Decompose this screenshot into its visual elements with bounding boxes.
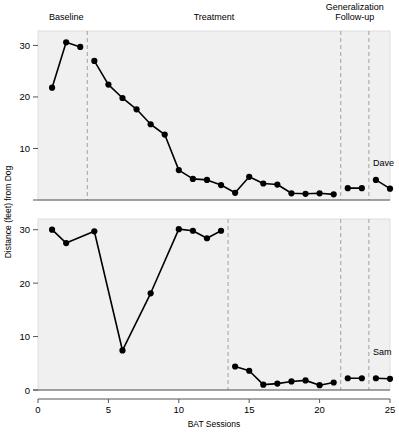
data-point bbox=[49, 85, 55, 91]
data-point bbox=[204, 235, 210, 241]
data-point bbox=[359, 375, 365, 381]
data-point bbox=[176, 167, 182, 173]
data-point bbox=[148, 290, 154, 296]
data-point bbox=[274, 181, 280, 187]
data-point bbox=[133, 106, 139, 112]
y-tick-label: 20 bbox=[19, 91, 30, 102]
y-tick-label: 20 bbox=[19, 278, 30, 289]
y-tick-label: 10 bbox=[19, 143, 30, 154]
data-point bbox=[119, 347, 125, 353]
data-point bbox=[246, 368, 252, 374]
data-point bbox=[218, 228, 224, 234]
data-point bbox=[148, 121, 154, 127]
data-point bbox=[288, 378, 294, 384]
data-point bbox=[232, 363, 238, 369]
data-point bbox=[176, 226, 182, 232]
phase-label-generalization: Generalization bbox=[326, 2, 384, 12]
data-point bbox=[204, 177, 210, 183]
data-point bbox=[190, 176, 196, 182]
phase-label-follow-up: Follow-up bbox=[335, 12, 374, 22]
y-tick-label: 0 bbox=[25, 385, 30, 396]
data-point bbox=[373, 177, 379, 183]
subject-label-dave: Dave bbox=[373, 158, 394, 168]
data-point bbox=[387, 186, 393, 192]
data-point bbox=[63, 39, 69, 45]
data-point bbox=[288, 190, 294, 196]
x-tick-label: 0 bbox=[35, 404, 40, 415]
phase-label-treatment: Treatment bbox=[194, 12, 235, 22]
data-point bbox=[345, 185, 351, 191]
data-point bbox=[317, 382, 323, 388]
chart-figure: 102030DaveBaselineTreatmentGeneralizatio… bbox=[0, 0, 399, 432]
panel-dave: 102030DaveBaselineTreatmentGeneralizatio… bbox=[19, 2, 394, 200]
data-point bbox=[232, 190, 238, 196]
panel-background bbox=[38, 219, 390, 390]
x-axis: 0510152025BAT Sessions bbox=[35, 399, 395, 429]
data-point bbox=[331, 379, 337, 385]
data-point bbox=[260, 180, 266, 186]
data-point bbox=[387, 376, 393, 382]
data-point bbox=[359, 185, 365, 191]
data-point bbox=[260, 382, 266, 388]
y-tick-label: 30 bbox=[19, 40, 30, 51]
y-tick-label: 10 bbox=[19, 331, 30, 342]
data-point bbox=[345, 375, 351, 381]
data-point bbox=[91, 58, 97, 64]
y-tick-label: 30 bbox=[19, 224, 30, 235]
data-point bbox=[331, 191, 337, 197]
single-case-design-chart: 102030DaveBaselineTreatmentGeneralizatio… bbox=[0, 0, 399, 432]
panel-sam: 0102030Sam bbox=[19, 219, 393, 396]
data-point bbox=[162, 131, 168, 137]
x-axis-title: BAT Sessions bbox=[188, 419, 241, 429]
data-point bbox=[63, 240, 69, 246]
data-point bbox=[190, 228, 196, 234]
data-point bbox=[246, 174, 252, 180]
subject-label-sam: Sam bbox=[373, 347, 392, 357]
x-tick-label: 15 bbox=[244, 404, 255, 415]
data-point bbox=[49, 227, 55, 233]
data-point bbox=[317, 190, 323, 196]
x-tick-label: 20 bbox=[314, 404, 325, 415]
data-point bbox=[119, 95, 125, 101]
data-point bbox=[302, 377, 308, 383]
y-axis-title: Distance (feet) from Dog bbox=[3, 165, 13, 258]
data-point bbox=[218, 182, 224, 188]
data-point bbox=[91, 228, 97, 234]
data-point bbox=[274, 380, 280, 386]
data-point bbox=[105, 81, 111, 87]
data-point bbox=[77, 44, 83, 50]
x-tick-label: 10 bbox=[174, 404, 185, 415]
panel-background bbox=[38, 31, 390, 200]
x-tick-label: 5 bbox=[106, 404, 111, 415]
x-tick-label: 25 bbox=[385, 404, 396, 415]
data-point bbox=[373, 375, 379, 381]
data-point bbox=[302, 191, 308, 197]
phase-label-baseline: Baseline bbox=[49, 12, 84, 22]
